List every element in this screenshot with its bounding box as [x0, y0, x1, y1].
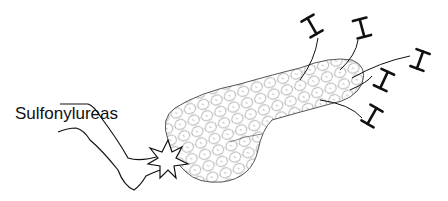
diagram-canvas: [0, 0, 448, 201]
drug-label: Sulfonylureas: [15, 104, 118, 124]
pancreas: [165, 59, 363, 182]
